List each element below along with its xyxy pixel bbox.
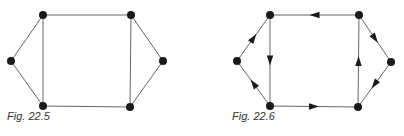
- edge: [43, 106, 130, 107]
- arrow-icon: [309, 103, 319, 109]
- edge: [11, 61, 43, 106]
- edge: [130, 61, 163, 107]
- caption-fig-22-6: Fig. 22.6: [232, 110, 275, 122]
- node-L: [7, 57, 15, 65]
- graph-figures: [0, 0, 404, 136]
- arrow-icon: [267, 56, 273, 66]
- node-BR: [126, 103, 134, 111]
- edge: [131, 15, 163, 61]
- node-TL: [266, 11, 274, 19]
- node-BR: [354, 103, 362, 111]
- node-TL: [39, 11, 47, 19]
- edge: [130, 15, 131, 107]
- arrow-icon: [310, 12, 320, 18]
- node-TR: [355, 11, 363, 19]
- arrow-icon: [370, 33, 378, 43]
- caption-fig-22-5: Fig. 22.5: [7, 110, 50, 122]
- node-R: [159, 57, 167, 65]
- arrow-icon: [372, 79, 380, 89]
- arrow-icon: [355, 56, 361, 66]
- node-BL: [266, 102, 274, 110]
- graph-fig-1: [7, 11, 167, 111]
- node-R: [387, 58, 395, 66]
- arrow-icon: [251, 79, 259, 89]
- graph-fig-2: [233, 11, 395, 111]
- edge: [11, 15, 43, 61]
- node-TR: [127, 11, 135, 19]
- arrow-icon: [248, 34, 256, 44]
- node-L: [233, 57, 241, 65]
- node-BL: [39, 102, 47, 110]
